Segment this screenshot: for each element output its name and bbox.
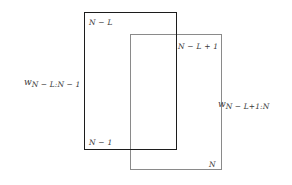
- first-window-start-index-label: N − L: [89, 19, 113, 27]
- second-window-end-index-label: N: [209, 161, 216, 169]
- first-window-rectangle: [84, 12, 177, 150]
- second-window-vector-subscript: N − L+1:N: [226, 102, 270, 111]
- first-window-vector-subscript: N − L:N − 1: [32, 80, 81, 89]
- second-window-vector-label: wN − L+1:N: [218, 100, 269, 111]
- second-window-vector-symbol: w: [218, 99, 226, 109]
- second-window-start-index-label: N − L + 1: [178, 43, 218, 51]
- first-window-vector-label: wN − L:N − 1: [24, 78, 80, 89]
- figure-canvas: N − L N − 1 N − L + 1 N wN − L:N − 1 wN …: [0, 0, 292, 185]
- first-window-end-index-label: N − 1: [89, 139, 112, 147]
- first-window-vector-symbol: w: [24, 77, 32, 87]
